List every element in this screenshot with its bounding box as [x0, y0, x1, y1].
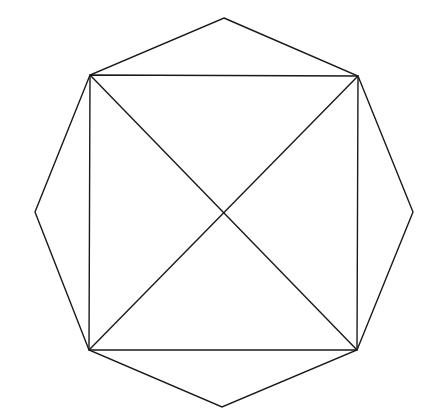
geometry-diagram — [0, 0, 425, 414]
